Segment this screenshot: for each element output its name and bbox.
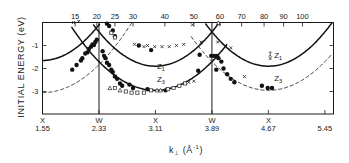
top-tick-label: 40: [161, 12, 169, 21]
point-filled-circle: [115, 77, 119, 81]
top-tick-label: 70: [237, 12, 245, 21]
x-axis-title: k⊥(Å-1): [169, 144, 203, 156]
point-filled-circle: [270, 86, 274, 90]
top-tick-label: 80: [260, 12, 268, 21]
point-filled-circle: [225, 72, 229, 76]
curve-label-z3: Z3: [157, 75, 165, 85]
x-tick-label: 5.45: [318, 124, 333, 133]
point-cross: [187, 81, 190, 84]
point-filled-circle: [70, 67, 74, 71]
point-filled-circle: [265, 86, 269, 90]
point-filled-circle: [111, 70, 115, 74]
point-filled-circle: [219, 59, 223, 63]
x-tick-label: 3.89: [205, 124, 220, 133]
point-filled-circle: [131, 86, 135, 90]
point-filled-circle: [196, 69, 200, 73]
point-filled-circle: [107, 63, 111, 67]
point-open-square: [113, 86, 116, 89]
top-tick-label: 25: [111, 12, 119, 21]
top-tick-label: 50: [190, 12, 198, 21]
point-filled-circle: [149, 48, 153, 52]
point-filled-circle: [137, 43, 141, 47]
point-cross: [133, 43, 136, 46]
point-filled-circle: [74, 63, 78, 67]
point-filled-circle: [216, 56, 220, 60]
top-tick-label: 15: [71, 12, 79, 21]
point-cross: [160, 45, 163, 48]
point-cross: [243, 75, 246, 78]
point-cross: [175, 44, 178, 47]
y-tick-label: -3: [32, 87, 39, 96]
y-tick-label: -2: [32, 64, 39, 73]
point-open-square: [150, 89, 153, 92]
point-open-square: [166, 88, 169, 91]
y-axis-title: INITIAL ENERGY (eV): [16, 16, 26, 117]
point-open-circle: [269, 55, 271, 57]
point-filled-circle: [145, 87, 149, 91]
curve-z1-solid: [205, 23, 332, 67]
point-cross: [216, 41, 219, 44]
point-cross: [153, 45, 156, 48]
top-tick-label: 20: [93, 12, 101, 21]
point-open-square: [113, 36, 116, 39]
point-cross: [192, 80, 195, 83]
plot-frame: [43, 23, 334, 115]
point-open-square: [130, 91, 133, 94]
point-cross: [229, 46, 232, 49]
curve-z3-solid: [72, 27, 228, 90]
curve-label-z3: Z3: [274, 74, 282, 84]
point-filled-circle: [107, 24, 111, 28]
point-open-square: [124, 90, 127, 93]
top-tick-label: 90: [279, 12, 287, 21]
x-tick-label: 2.33: [92, 124, 107, 133]
curve-label-z1: Z1: [274, 51, 282, 61]
curves: [43, 23, 333, 93]
x-tick-label: 3.11: [148, 124, 162, 133]
x-tick-label: 1.55: [35, 124, 50, 133]
point-filled-circle: [260, 84, 264, 88]
point-open-square: [142, 91, 145, 94]
curve-label-z1: Z1: [157, 62, 165, 72]
data-points: [70, 20, 274, 94]
top-tick-label: 60: [216, 12, 224, 21]
point-open-triangle: [118, 88, 122, 92]
point-filled-circle: [197, 53, 201, 57]
point-cross: [146, 44, 149, 47]
point-filled-circle: [232, 80, 236, 84]
point-filled-circle: [103, 56, 107, 60]
curve-label-sub: 1: [162, 66, 165, 72]
y-ticks: -1-2-3: [32, 41, 334, 96]
point-filled-circle: [120, 84, 124, 88]
point-cross: [142, 45, 145, 48]
point-open-triangle: [155, 88, 159, 92]
x-axis-title-unit: (Å: [183, 145, 193, 155]
point-open-square: [184, 82, 187, 85]
curve-label-sub: 3: [279, 78, 282, 84]
x-ticks: X1.55W2.33X3.11W3.89X4.675.45: [35, 110, 332, 133]
y-tick-label: -1: [32, 41, 39, 50]
top-tick-label: 100: [296, 12, 309, 21]
point-open-triangle: [159, 88, 163, 92]
point-open-square: [172, 86, 175, 89]
point-open-square: [110, 31, 113, 34]
curve-label-sub: 1: [279, 55, 282, 61]
point-filled-circle: [229, 77, 233, 81]
x-axis-title-close: ): [199, 145, 203, 155]
point-filled-circle: [100, 49, 104, 53]
point-open-triangle: [108, 86, 112, 90]
point-filled-circle: [221, 66, 225, 70]
point-filled-circle: [214, 67, 218, 71]
point-cross: [168, 45, 171, 48]
point-open-square: [136, 91, 139, 94]
x-axis-title-sub: ⊥: [174, 150, 180, 156]
point-filled-circle: [127, 82, 131, 86]
top-tick-label: 30: [129, 12, 137, 21]
x-tick-label: 4.67: [261, 124, 276, 133]
chart: -1-2-3 X1.55W2.33X3.11W3.89X4.675.45 152…: [0, 0, 349, 163]
point-filled-circle: [95, 38, 99, 42]
point-open-square: [178, 84, 181, 87]
point-filled-circle: [80, 56, 84, 60]
curve-z1-solid: [43, 24, 100, 61]
curve-label-sub: 3: [162, 79, 165, 85]
point-cross: [182, 43, 185, 46]
